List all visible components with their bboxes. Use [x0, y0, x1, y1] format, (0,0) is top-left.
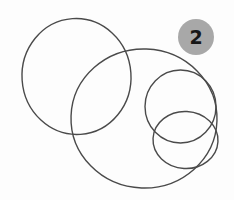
count-badge: 2 — [178, 19, 214, 55]
figure-canvas: 2 — [0, 0, 234, 200]
count-badge-label: 2 — [189, 28, 202, 47]
circle-medium-right — [145, 70, 216, 143]
circle-large-left — [18, 15, 135, 138]
circle-large-center — [69, 46, 220, 190]
circle-small-bottom-right — [152, 110, 220, 170]
